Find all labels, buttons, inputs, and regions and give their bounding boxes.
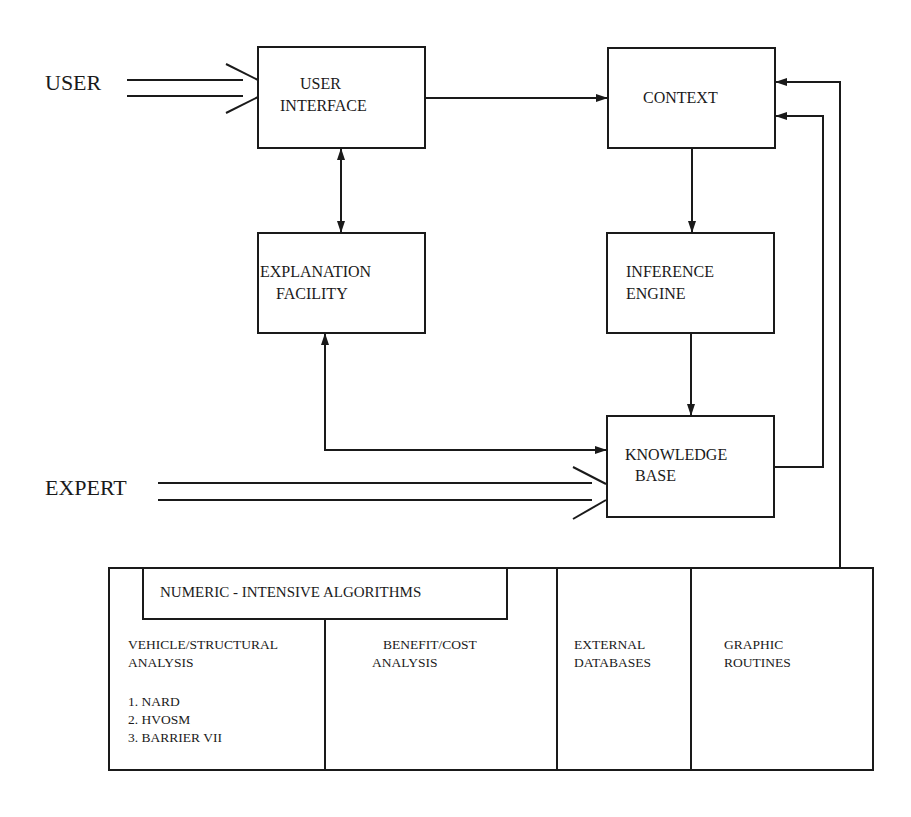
inference-engine-box [607,233,774,333]
graphic-routines-label-line2: ROUTINES [724,654,791,672]
user-interface-label-line1: USER [300,74,341,93]
expert-input-connector [158,467,606,519]
external-databases-label-line1: EXTERNAL [574,636,645,654]
context-label: CONTEXT [643,88,718,107]
expert-actor-label: EXPERT [45,475,127,501]
diagram-canvas: USER EXPERT USER INTERFACE CONTEXT EXPLA… [0,0,911,817]
benefit-cost-label-line1: BENEFIT/COST [383,636,477,654]
vehicle-structural-label-line1: VEHICLE/STRUCTURAL [128,636,278,654]
user-actor-label: USER [45,70,101,96]
user-input-connector [127,64,258,113]
graphic-routines-label-line1: GRAPHIC [724,636,783,654]
algorithm-list-item: 3. BARRIER VII [128,729,222,747]
benefit-cost-label-line2: ANALYSIS [372,654,437,672]
inference-label-line2: ENGINE [626,284,686,303]
kb-to-context-arrow [774,116,823,467]
explanation-facility-box [258,233,425,333]
explanation-label-line2: FACILITY [276,284,348,303]
algorithm-list-item: 2. HVOSM [128,711,190,729]
explanation-label-line1: EXPLANATION [260,262,371,281]
numeric-algorithms-header: NUMERIC - INTENSIVE ALGORITHMS [160,583,421,601]
external-databases-label-line2: DATABASES [574,654,651,672]
knowledge-base-label-line2: BASE [635,466,676,485]
panel-to-context-arrow [776,82,840,568]
knowledge-base-box [607,416,774,517]
algorithm-list-item: 1. NARD [128,693,180,711]
vehicle-structural-label-line2: ANALYSIS [128,654,193,672]
explanation-kb-arrow [325,334,606,450]
knowledge-base-label-line1: KNOWLEDGE [625,445,727,464]
user-interface-label-line2: INTERFACE [280,96,367,115]
inference-label-line1: INFERENCE [626,262,714,281]
